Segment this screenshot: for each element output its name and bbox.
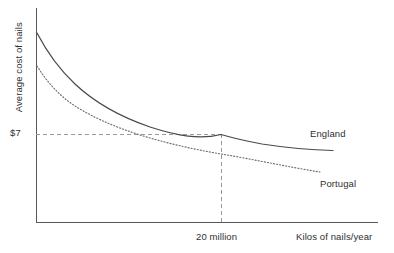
plot-area [0,0,394,253]
x-axis-tick-label-20-million: 20 million [196,232,237,242]
average-cost-curve-chart: Average cost of nails $7 20 million Kilo… [0,0,394,253]
axes [36,8,378,223]
y-axis-label: Average cost of nails [14,7,24,127]
data-series [37,33,333,172]
y-axis-tick-label-7: $7 [10,128,21,138]
guide-lines [36,134,222,222]
x-axis-label: Kilos of nails/year [296,232,372,242]
series-curve-portugal [37,66,320,172]
series-label-portugal: Portugal [320,179,356,189]
series-label-england: England [310,129,346,139]
series-curve-england [37,33,333,151]
